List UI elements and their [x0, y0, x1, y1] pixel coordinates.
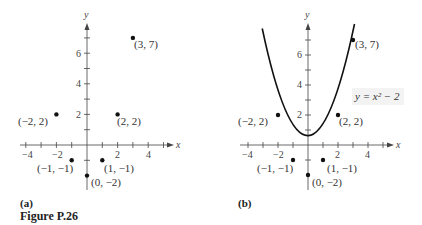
y-axis-arrow-icon: [85, 23, 90, 30]
curve-points: [276, 38, 355, 177]
y-tick-2: 2: [76, 109, 81, 120]
label-0-m2-b: (0, −2): [312, 176, 342, 189]
panel-a: x y −4 −2 2 4 2 4 6 (−2, 2) (−1, −1) (0,…: [18, 9, 181, 190]
x-axis-arrow-icon: [387, 143, 394, 148]
point-0-m2-b: [306, 173, 310, 177]
label-1-m1: (1, −1): [104, 162, 134, 175]
label-m1-m1-b: (−1, −1): [257, 162, 294, 175]
x-axis-arrow-icon: [167, 143, 174, 148]
panel-a-tag: (a): [20, 197, 33, 209]
x-tick-m4-b: −4: [242, 149, 253, 160]
label-2-2: (2, 2): [117, 115, 141, 128]
label-3-7-b: (3, 7): [355, 38, 379, 51]
label-1-m1-b: (1, −1): [327, 162, 357, 175]
point-0-m2: [85, 173, 89, 177]
figure-canvas: x y −4 −2 2 4 2 4 6 (−2, 2) (−1, −1) (0,…: [0, 0, 422, 225]
y-tick-4-b: 4: [297, 79, 302, 90]
x-tick-2: 2: [115, 149, 120, 160]
label-m1-m1: (−1, −1): [37, 162, 74, 175]
y-tick-6: 6: [76, 48, 81, 59]
data-points: [54, 36, 135, 178]
point-1-m1-b: [321, 158, 325, 162]
y-axis-label: y: [83, 9, 89, 20]
label-m2-2-b: (−2, 2): [238, 115, 268, 128]
equation-label: y = x² − 2: [354, 90, 400, 102]
x-axis-b: [240, 142, 390, 148]
x-axis-label: x: [175, 139, 181, 150]
panel-b-tag: (b): [238, 197, 251, 209]
x-tick-m2: −2: [52, 149, 63, 160]
figure-caption: Figure P.26: [20, 209, 78, 224]
label-3-7: (3, 7): [134, 38, 158, 51]
x-tick-2-b: 2: [335, 149, 340, 160]
label-m2-2: (−2, 2): [18, 115, 48, 128]
x-axis: [20, 142, 170, 148]
label-0-m2: (0, −2): [91, 176, 121, 189]
x-tick-m4: −4: [22, 149, 33, 160]
x-tick-4: 4: [146, 149, 151, 160]
y-axis: [84, 28, 90, 190]
y-tick-4: 4: [76, 78, 81, 89]
y-tick-2-b: 2: [297, 109, 302, 120]
x-tick-4-b: 4: [365, 149, 370, 160]
label-2-2-b: (2, 2): [339, 115, 363, 128]
point-m2-2-b: [276, 113, 280, 117]
point-m2-2: [54, 112, 58, 116]
y-axis-label-b: y: [304, 9, 310, 20]
x-tick-m2-b: −2: [273, 149, 284, 160]
panel-b: x y −4 −2 2 4 2 4 6 (−2, 2) (−1, −1) (0,…: [238, 9, 404, 190]
y-axis-arrow-icon: [306, 23, 311, 30]
y-tick-6-b: 6: [297, 49, 302, 60]
y-axis-b: [305, 28, 311, 190]
x-axis-label-b: x: [395, 139, 401, 150]
